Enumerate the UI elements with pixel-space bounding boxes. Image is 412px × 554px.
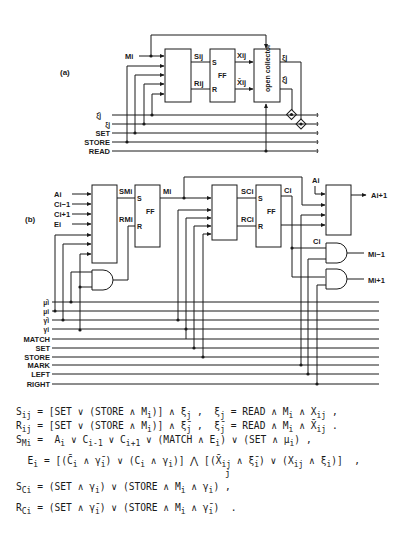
mi-input-label: Mi [125,52,133,61]
rc-label: RCi [241,215,254,224]
ff1-r-pin: R [137,223,142,230]
xi-tap-wire [144,84,164,124]
mi-label-b: Mi [163,187,171,196]
ci-and-label: Ci [313,237,321,246]
bus-label-mu: μi [43,308,49,316]
propagation-block [326,185,351,235]
bus-label-right: RIGHT [27,380,51,389]
xbarij-label: X̄ij [237,78,246,87]
open-collector-label: open collector [264,44,272,92]
bus-label-mark: MARK [28,361,51,370]
input-label-ai: Ai [54,190,62,199]
bus-label-left: LEFT [31,370,50,379]
ff1-label: FF [146,208,155,215]
mi-feedback-b [184,177,325,205]
ff-s-pin: S [212,59,217,66]
bus-label-read: READ [89,147,111,156]
xibar-tap-wire [152,94,164,115]
equation-smi: SMi = Ai ∨ Ci-1 ∨ Ci+1 ∨ (MATCH ∧ Ei) ∨ … [16,434,312,450]
ff2-label: FF [267,208,276,215]
input-label-ei: Ei [54,220,61,229]
ff2-r-pin: R [258,223,263,230]
and-gate-mi+1 [326,269,347,289]
figure-a-label: (a) [60,68,70,77]
ff1-s-pin: S [137,195,142,202]
ci-label: Ci [284,186,292,195]
and-gate-mi-1 [326,243,347,263]
sm-label: SMi [119,187,132,196]
equation-ei: Ei = [(C̄i ∧ γ̄i) ∨ (Ci ∧ γi)] ⋀ [(X̄ij … [16,455,360,471]
match-logic-block [92,185,117,263]
ff-label: FF [218,72,227,79]
figure-b-label: (b) [25,215,36,224]
bus-label-gammabar: γ̄i [44,317,50,325]
sij-label: Sij [194,52,203,61]
rm-label: RMi [119,215,133,224]
mi+1-label: Mi+1 [368,276,385,285]
bus-label-store: STORE [84,138,110,147]
input-label-ci+1: Ci+1 [54,210,70,219]
right-tap [317,285,326,384]
logic-block-a [165,49,191,102]
store-tap-wire [127,66,164,142]
c-logic-block [212,185,237,240]
equation-sci: SCi = (SET ∧ γi) ∨ (STORE ∧ Mi ∧ γi) , [16,481,231,497]
xij-label: Xij [237,51,246,60]
bus-label-xi: ξj [105,121,110,129]
bus-label-gamma: γi [44,326,50,334]
match-tap-wire [63,244,91,320]
bus-continuation-marks [317,113,318,153]
bus-label-match: MATCH [23,335,50,344]
equation-rci: RCi = (SET ∧ γ̄i) ∨ (STORE ∧ Mi ∧ γ̄i) . [16,502,237,518]
ai-in-label: Ai [312,176,320,185]
set-tap-wire-b [80,254,91,330]
figure-b: (b) Ai Ci−1 Ci+1 Ei SMi RMi S [23,176,387,389]
xibar-output-label: ξ̄j [282,75,287,84]
sc-label: SCi [241,187,254,196]
ai+1-label: Ai+1 [371,191,387,200]
xi-output-label: ξj [282,53,287,62]
and-gate-rm [92,270,113,290]
bus-label-xibar: ξ̄j [96,112,101,120]
mi-1-label: Mi−1 [368,250,385,259]
gamma-tap [186,218,211,339]
mu-tap-wire [55,235,91,311]
bus-label-set: SET [95,129,110,138]
bus-lines-b [52,302,379,384]
bus-label-mubar: μ̄i [43,299,49,307]
input-label-ci-1: Ci−1 [54,200,70,209]
circuit-diagram: (a) Mi Sij Rij S R FF Xij X̄ij [0,0,412,400]
equation-ei-subscript-j: j [225,467,230,479]
figure-a: (a) Mi Sij Rij S R FF Xij X̄ij [60,35,318,156]
bus-label-set: SET [35,344,50,353]
ff-r-pin: R [212,86,217,93]
rij-label: Rij [194,79,204,88]
ff2-s-pin: S [258,195,263,202]
